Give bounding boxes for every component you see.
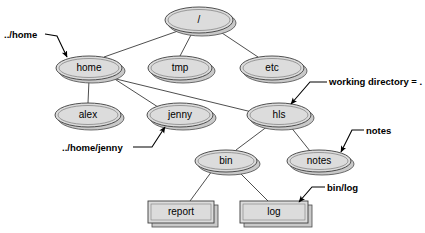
node-label: alex	[79, 109, 97, 120]
node-etc[interactable]: etc	[240, 56, 307, 83]
annotation-label: ../home/jenny	[62, 142, 123, 153]
annotation-label: bin/log	[327, 182, 358, 193]
edge-home-alex	[88, 80, 89, 103]
edge-bin-log	[238, 171, 268, 201]
diagram-canvas: / home tmp etc alex	[0, 0, 425, 233]
annotation-relative-path-notes: notes	[341, 125, 391, 152]
node-bin[interactable]: bin	[195, 150, 260, 175]
node-home[interactable]: home	[56, 56, 125, 83]
edge-home-jenny	[110, 76, 158, 107]
annotation-relative-path-home-jenny: ../home/jenny	[62, 127, 165, 153]
edge-bin-report	[190, 171, 212, 201]
annotation-label: ../home	[4, 29, 37, 40]
node-label: home	[76, 62, 101, 73]
node-label: jenny	[167, 109, 192, 120]
node-log[interactable]: log	[240, 201, 312, 227]
node-alex[interactable]: alex	[55, 103, 124, 130]
file-system-tree-diagram: / home tmp etc alex	[0, 0, 425, 233]
edge-root-etc	[219, 31, 258, 57]
node-notes[interactable]: notes	[287, 150, 354, 175]
edge-hls-bin	[236, 126, 268, 150]
annotation-working-directory: working directory = .	[291, 76, 422, 104]
annotation-label: notes	[366, 125, 391, 136]
leader-line	[133, 127, 165, 147]
node-label: bin	[219, 155, 232, 166]
node-report[interactable]: report	[148, 201, 218, 227]
node-label: hls	[273, 109, 286, 120]
node-tmp[interactable]: tmp	[148, 56, 215, 83]
node-jenny[interactable]: jenny	[147, 103, 216, 130]
node-label: etc	[265, 62, 278, 73]
annotation-relative-path-bin-log: bin/log	[299, 182, 358, 202]
node-label: notes	[307, 155, 331, 166]
annotation-relative-path-home: ../home	[4, 29, 67, 57]
node-label: tmp	[172, 62, 189, 73]
node-label: log	[267, 206, 280, 217]
leader-line	[299, 187, 325, 202]
edge-root-home	[104, 31, 178, 57]
node-root[interactable]: /	[165, 7, 236, 36]
edge-root-tmp	[180, 33, 192, 56]
leader-line	[341, 130, 364, 152]
node-hls[interactable]: hls	[247, 103, 314, 130]
node-label: /	[198, 14, 201, 25]
annotation-label: working directory = .	[328, 76, 422, 87]
node-label: report	[168, 206, 194, 217]
leader-line	[291, 82, 327, 104]
edge-hls-notes	[290, 126, 310, 151]
leader-line	[45, 34, 67, 57]
